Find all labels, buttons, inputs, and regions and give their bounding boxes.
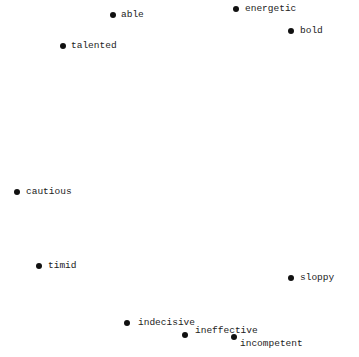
marker: [110, 12, 116, 18]
marker: [182, 332, 188, 338]
point-label: talented: [71, 41, 117, 51]
marker: [288, 275, 294, 281]
point-label: ineffective: [195, 326, 258, 336]
point-label: cautious: [26, 187, 72, 197]
marker: [124, 320, 130, 326]
marker: [36, 263, 42, 269]
marker: [231, 334, 237, 340]
marker: [288, 28, 294, 34]
point-label: bold: [300, 26, 323, 36]
point-label: timid: [48, 261, 77, 271]
scatter-plot: able energetic bold talented cautious ti…: [0, 0, 359, 357]
point-label: able: [121, 10, 144, 20]
marker: [60, 43, 66, 49]
point-label: indecisive: [138, 318, 195, 328]
point-label: energetic: [245, 4, 296, 14]
point-label: incompetent: [240, 339, 303, 349]
point-label: sloppy: [300, 273, 334, 283]
marker: [14, 189, 20, 195]
marker: [233, 6, 239, 12]
